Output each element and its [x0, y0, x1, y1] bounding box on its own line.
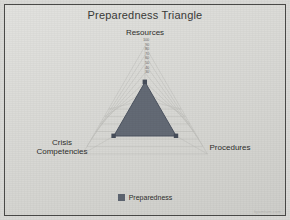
radial-tick-labels: 100 90 80 70 60 50 40 30 — [119, 38, 149, 75]
axis-label-crisis-line1: Crisis — [20, 138, 104, 147]
legend-swatch-preparedness — [118, 194, 125, 201]
chart-container: Preparedness Triangle Resources Procedur… — [0, 0, 290, 220]
axis-label-crisis-competencies: Crisis Competencies — [20, 138, 104, 156]
axis-label-procedures: Procedures — [190, 143, 270, 152]
chart-legend: Preparedness — [0, 194, 290, 201]
axis-label-crisis-line2: Competencies — [20, 147, 104, 156]
axis-label-resources: Resources — [0, 28, 290, 37]
chart-title: Preparedness Triangle — [0, 9, 290, 21]
tick-label: 30 — [119, 70, 149, 75]
legend-label-preparedness: Preparedness — [129, 194, 173, 201]
watermark: kyamtum.com — [254, 209, 281, 214]
